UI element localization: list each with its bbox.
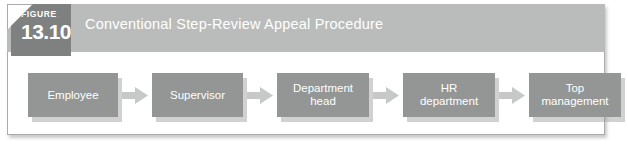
- margin-credit-text: [615, 46, 626, 142]
- figure-badge-word: FIGURE: [21, 9, 71, 19]
- flow-arrow-3: [373, 87, 399, 104]
- flow-node-label: Top management: [541, 82, 608, 108]
- flow-diagram: Employee Supervisor Department head: [7, 52, 605, 135]
- flow-node-label: Supervisor: [170, 89, 225, 102]
- flow-node-department-head: Department head: [277, 73, 369, 117]
- flow-node-supervisor: Supervisor: [152, 73, 243, 117]
- flow-arrow-1: [122, 87, 148, 104]
- flow-node-label: Department head: [293, 82, 353, 108]
- flow-node-top-management: Top management: [529, 73, 621, 117]
- flow-node-label: Employee: [47, 89, 98, 102]
- flow-arrow-4: [499, 87, 525, 104]
- flow-arrow-2: [247, 87, 273, 104]
- figure-root: FIGURE 13.10 Conventional Step-Review Ap…: [0, 0, 628, 147]
- figure-badge-number: 13.10: [21, 20, 71, 44]
- flow-node-employee: Employee: [28, 73, 118, 117]
- flow-node-hr-department: HR department: [403, 73, 495, 117]
- flow-node-label: HR department: [420, 82, 478, 108]
- figure-title: Conventional Step-Review Appeal Procedur…: [85, 16, 383, 32]
